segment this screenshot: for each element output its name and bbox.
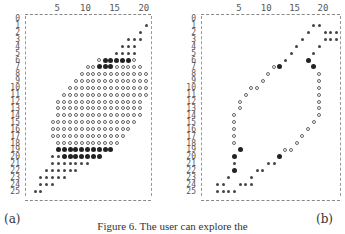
open-circle-icon <box>91 65 95 69</box>
open-circle-icon <box>91 93 95 97</box>
open-circle-icon <box>115 79 119 83</box>
asterisk-icon <box>45 169 48 172</box>
open-circle-icon <box>103 72 107 76</box>
asterisk-icon <box>139 31 142 34</box>
open-circle-icon <box>86 79 90 83</box>
open-circle-icon <box>80 100 84 104</box>
open-circle-icon <box>132 113 136 117</box>
open-circle-icon <box>109 120 113 124</box>
open-circle-icon <box>74 134 78 138</box>
asterisk-icon <box>244 183 247 186</box>
bullet-icon <box>108 64 113 69</box>
asterisk-icon <box>63 176 66 179</box>
open-circle-icon <box>132 86 136 90</box>
asterisk-icon <box>267 162 270 165</box>
open-circle-icon <box>109 106 113 110</box>
open-circle-icon <box>126 113 130 117</box>
asterisk-icon <box>295 45 298 48</box>
open-circle-icon <box>132 79 136 83</box>
open-circle-icon <box>103 86 107 90</box>
grid-cell <box>299 36 305 43</box>
asterisk-icon <box>51 162 54 165</box>
asterisk-icon <box>256 169 259 172</box>
open-circle-icon <box>86 120 90 124</box>
open-circle-icon <box>317 100 321 104</box>
open-circle-icon <box>126 120 130 124</box>
asterisk-icon <box>301 38 304 41</box>
open-circle-icon <box>80 79 84 83</box>
open-circle-icon <box>103 106 107 110</box>
open-circle-icon <box>109 141 113 145</box>
open-circle-icon <box>91 134 95 138</box>
open-circle-icon <box>126 72 130 76</box>
asterisk-icon <box>63 162 66 165</box>
grid-cell <box>96 153 102 160</box>
open-circle-icon <box>51 134 55 138</box>
open-circle-icon <box>115 72 119 76</box>
open-circle-icon <box>74 93 78 97</box>
open-circle-icon <box>266 72 270 76</box>
open-circle-icon <box>103 134 107 138</box>
bullet-icon <box>277 154 282 159</box>
open-circle-icon <box>115 65 119 69</box>
open-circle-icon <box>138 106 142 110</box>
grid-cell <box>114 140 120 147</box>
open-circle-icon <box>238 106 242 110</box>
asterisk-icon <box>34 190 37 193</box>
asterisk-icon <box>51 183 54 186</box>
top-border <box>25 14 151 15</box>
column-tick: 10 <box>261 3 272 13</box>
open-circle-icon <box>232 141 236 145</box>
open-circle-icon <box>62 106 66 110</box>
grid-cell <box>137 36 143 43</box>
open-circle-icon <box>91 86 95 90</box>
open-circle-icon <box>144 72 148 76</box>
open-circle-icon <box>103 79 107 83</box>
open-circle-icon <box>126 93 130 97</box>
open-circle-icon <box>80 141 84 145</box>
bullet-icon <box>91 147 96 152</box>
open-circle-icon <box>138 100 142 104</box>
grid-cell <box>316 43 322 50</box>
grid-cell <box>294 140 300 147</box>
open-circle-icon <box>138 93 142 97</box>
asterisk-icon <box>74 162 77 165</box>
open-circle-icon <box>115 120 119 124</box>
open-circle-icon <box>91 120 95 124</box>
open-circle-icon <box>51 120 55 124</box>
bullet-icon <box>103 58 108 63</box>
column-tick: 15 <box>289 3 300 13</box>
open-circle-icon <box>121 93 125 97</box>
bullet-icon <box>91 154 96 159</box>
open-circle-icon <box>97 141 101 145</box>
open-circle-icon <box>86 72 90 76</box>
open-circle-icon <box>317 106 321 110</box>
open-circle-icon <box>126 127 130 131</box>
open-circle-icon <box>91 113 95 117</box>
open-circle-icon <box>56 106 60 110</box>
grid-cell <box>143 91 149 98</box>
open-circle-icon <box>121 65 125 69</box>
open-circle-icon <box>62 127 66 131</box>
open-circle-icon <box>56 113 60 117</box>
open-circle-icon <box>91 72 95 76</box>
open-circle-icon <box>109 113 113 117</box>
asterisk-icon <box>133 52 136 55</box>
open-circle-icon <box>56 134 60 138</box>
asterisk-icon <box>121 52 124 55</box>
grid-cell <box>305 29 311 36</box>
open-circle-icon <box>132 72 136 76</box>
open-circle-icon <box>144 93 148 97</box>
bullet-icon <box>232 168 237 173</box>
open-circle-icon <box>115 141 119 145</box>
open-circle-icon <box>121 113 125 117</box>
open-circle-icon <box>86 127 90 131</box>
asterisk-icon <box>57 155 60 158</box>
open-circle-icon <box>80 72 84 76</box>
asterisk-icon <box>74 169 77 172</box>
open-circle-icon <box>306 127 310 131</box>
open-circle-icon <box>74 100 78 104</box>
bullet-icon <box>79 154 84 159</box>
asterisk-icon <box>261 169 264 172</box>
open-circle-icon <box>86 93 90 97</box>
